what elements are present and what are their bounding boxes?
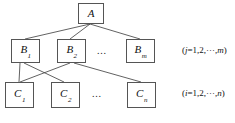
node-C1-label: C1 (14, 88, 25, 102)
node-B2-subscript: 2 (74, 52, 78, 60)
node-C1: C1 (5, 82, 34, 108)
edge-A-to-B2 (70, 24, 90, 39)
node-B2-label: B2 (66, 44, 76, 58)
edge-A-to-Bm (90, 24, 140, 39)
node-Cn-label: Cn (136, 88, 147, 102)
node-B1-label: B1 (20, 44, 30, 58)
node-C2: C2 (51, 82, 80, 108)
c-note-body: =1,2,···, (188, 88, 218, 98)
edge-B1-to-C2 (24, 63, 64, 82)
edge-A-to-B1 (25, 24, 90, 39)
node-C2-subscript: 2 (68, 96, 72, 104)
node-A-label: A (88, 8, 95, 19)
node-Cn: Cn (127, 82, 156, 108)
edge-B2-to-Cn (74, 63, 141, 82)
node-B1-subscript: 1 (28, 52, 32, 60)
hierarchy-tree-diagram: A B1 B2 Bm ... C1 C2 Cn ... (j=1,2,···,m… (0, 0, 235, 123)
edge-B1-to-C1 (19, 63, 20, 82)
b-note-body: =1,2,···, (188, 45, 218, 55)
c-level-index-note: (i=1,2,···,n) (182, 88, 225, 98)
node-Bm-subscript: m (142, 52, 147, 60)
node-A: A (78, 3, 104, 24)
node-C2-label: C2 (60, 88, 71, 102)
node-B2: B2 (57, 39, 86, 63)
edge-B2-to-C1 (20, 63, 70, 82)
b-level-index-note: (j=1,2,···,m) (182, 45, 227, 55)
node-Cn-subscript: n (144, 96, 148, 104)
node-Bm-label: Bm (135, 44, 147, 58)
c-level-ellipsis: ... (92, 88, 102, 99)
node-C1-subscript: 1 (22, 96, 26, 104)
node-B1: B1 (11, 39, 40, 63)
b-note-suffix: ) (224, 45, 227, 55)
node-Bm: Bm (126, 39, 155, 63)
c-note-suffix: ) (222, 88, 225, 98)
b-level-ellipsis: ... (97, 45, 107, 56)
